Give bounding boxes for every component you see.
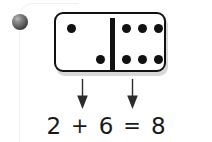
domino-divider-line xyxy=(110,18,115,70)
equals-sign: = xyxy=(123,116,141,137)
arrow-down-icon xyxy=(76,79,89,110)
first-addend: 2 xyxy=(46,115,61,138)
domino-tile xyxy=(54,12,168,74)
addition-equation: 2 + 6 = 8 xyxy=(0,112,212,140)
domino-pip xyxy=(154,24,163,33)
sum-value: 8 xyxy=(151,115,166,138)
domino-pip xyxy=(138,55,147,64)
domino-pip xyxy=(96,55,105,64)
domino-addition-worksheet: 2 + 6 = 8 xyxy=(0,0,212,142)
domino-pip xyxy=(122,24,131,33)
sphere-bullet-icon xyxy=(12,14,28,30)
domino-pip xyxy=(67,24,76,33)
domino-body xyxy=(54,12,166,72)
domino-pip xyxy=(122,55,131,64)
second-addend: 6 xyxy=(99,115,114,138)
arrow-down-icon xyxy=(126,79,139,110)
plus-sign: + xyxy=(71,116,89,137)
domino-pip xyxy=(154,55,163,64)
domino-pip xyxy=(138,24,147,33)
